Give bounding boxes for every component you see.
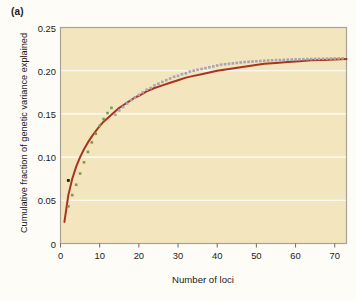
data-point	[286, 58, 289, 61]
data-point	[236, 62, 239, 65]
data-point	[228, 62, 231, 65]
data-point	[232, 62, 235, 65]
data-point	[71, 194, 74, 197]
data-point	[243, 61, 246, 64]
data-point	[302, 58, 305, 61]
data-point	[149, 87, 152, 90]
data-point	[314, 58, 317, 61]
data-point	[220, 63, 223, 66]
data-point	[114, 113, 117, 116]
data-point	[294, 58, 297, 61]
data-point	[326, 57, 329, 60]
data-point	[169, 77, 172, 80]
data-point	[102, 118, 105, 121]
data-point	[318, 58, 321, 61]
data-point	[161, 81, 164, 84]
data-point	[87, 151, 90, 154]
data-point	[134, 96, 137, 99]
data-point	[200, 68, 203, 71]
data-point	[173, 75, 176, 78]
data-point	[141, 91, 144, 94]
data-point	[251, 60, 254, 63]
data-point	[145, 88, 148, 91]
data-point	[188, 70, 191, 73]
data-point	[196, 69, 199, 72]
data-point	[138, 94, 141, 97]
data-point	[263, 59, 266, 62]
data-point	[247, 61, 250, 64]
data-point	[341, 57, 344, 60]
data-point	[67, 179, 70, 182]
data-point	[185, 72, 188, 75]
data-point	[298, 58, 301, 61]
chart-plot-area	[0, 0, 356, 301]
data-point	[271, 59, 274, 62]
data-point	[181, 73, 184, 76]
data-point	[330, 57, 333, 60]
data-point	[255, 60, 258, 63]
series-single-black-point	[67, 179, 70, 182]
data-point	[106, 112, 109, 115]
data-point	[130, 99, 133, 102]
data-point	[122, 106, 125, 109]
data-point	[279, 59, 282, 62]
data-point	[267, 59, 270, 62]
data-point	[75, 183, 78, 186]
data-point	[83, 161, 86, 164]
data-point	[306, 58, 309, 61]
data-point	[153, 84, 156, 87]
data-point	[192, 69, 195, 72]
data-point	[322, 57, 325, 60]
data-point	[157, 82, 160, 85]
data-point	[91, 141, 94, 144]
data-point	[337, 57, 340, 60]
data-point	[239, 61, 242, 64]
data-point	[98, 125, 101, 128]
data-point	[118, 109, 121, 112]
data-point	[310, 58, 313, 61]
data-point	[333, 57, 336, 60]
data-point	[94, 132, 97, 135]
data-point	[79, 172, 82, 175]
data-point	[283, 59, 286, 62]
data-point	[204, 67, 207, 70]
data-point	[177, 75, 180, 78]
figure-panel-a: (a) Cumulative fraction of genetic varia…	[0, 0, 356, 301]
data-point	[208, 66, 211, 69]
data-point	[290, 58, 293, 61]
data-point	[67, 205, 70, 208]
data-point	[216, 64, 219, 67]
data-point	[259, 60, 262, 63]
data-point	[165, 79, 168, 82]
data-point	[126, 102, 129, 105]
data-point	[212, 65, 215, 68]
data-point	[275, 59, 278, 62]
data-point	[224, 63, 227, 66]
data-point	[110, 107, 113, 110]
